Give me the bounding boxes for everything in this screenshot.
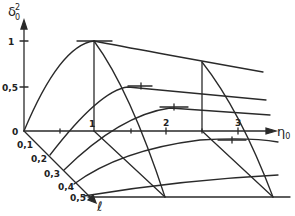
y-axis — [20, 20, 28, 131]
curve-l03 — [64, 104, 270, 170]
l-tick-label-04: 0,4 — [58, 182, 74, 192]
l-tick-label-02: 0,2 — [31, 154, 47, 164]
l-tick-label-05: 0,5 — [70, 193, 86, 203]
l-tick-label-03: 0,3 — [44, 169, 60, 179]
x-axis — [24, 128, 276, 134]
diagram-figure: δ02 1 0,5 0 1 2 3 η0 0,1 0,2 0,3 0,4 0,5… — [0, 0, 295, 216]
y-axis-label: δ02 — [8, 3, 20, 22]
origin-label: 0 — [12, 127, 18, 137]
ridge-lines — [94, 41, 273, 197]
curve-l02 — [50, 83, 266, 155]
y-tick-label-1: 1 — [8, 37, 14, 47]
curve-l04 — [84, 175, 278, 196]
x-axis-label: η0 — [277, 124, 290, 141]
y-tick-label-05: 0,5 — [2, 83, 18, 93]
x-tick-label-2: 2 — [163, 118, 169, 128]
l-axis-label: ℓ — [96, 199, 102, 214]
l-tick-label-01: 0,1 — [17, 140, 33, 150]
x-tick-label-3: 3 — [235, 118, 241, 128]
x-tick-label-1: 1 — [89, 119, 95, 129]
